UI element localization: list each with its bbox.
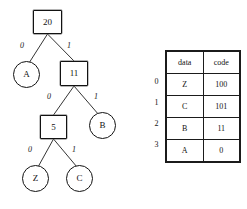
huffman-tree-panel: 20A115BZC 010101 xyxy=(0,0,145,209)
tree-edge-n5-z xyxy=(38,139,54,167)
code-table: datacodeZ100C101B11A0 xyxy=(165,50,241,163)
code-table-row: Z100 xyxy=(166,74,240,96)
tree-node-b: B xyxy=(89,112,116,139)
code-table-cell-code: 101 xyxy=(203,96,240,118)
tree-edge-label-n5-c: 1 xyxy=(72,146,76,154)
code-table-cell-data: Z xyxy=(166,74,203,96)
code-table-row: C101 xyxy=(166,96,240,118)
tree-node-n5: 5 xyxy=(40,115,67,139)
table-row-index: 2 xyxy=(150,120,163,128)
tree-node-z: Z xyxy=(22,165,49,192)
tree-node-label: 20 xyxy=(43,18,52,27)
code-table-row: B11 xyxy=(166,118,240,140)
code-table-row: A0 xyxy=(166,140,240,163)
code-table-cell-data: A xyxy=(166,140,203,163)
code-table-cell-code: 100 xyxy=(203,74,240,96)
tree-node-n11: 11 xyxy=(60,61,88,86)
tree-node-label: Z xyxy=(33,174,39,183)
huffman-diagram-figure: 20A115BZC 010101 0123 datacodeZ100C101B1… xyxy=(0,0,247,209)
tree-node-c: C xyxy=(66,165,93,192)
table-row-index: 0 xyxy=(150,78,163,86)
tree-edge-n11-n5 xyxy=(54,86,75,115)
code-table-panel: 0123 datacodeZ100C101B11A0 xyxy=(145,0,247,209)
code-table-cell-code: 11 xyxy=(203,118,240,140)
table-row-index: 3 xyxy=(150,141,163,149)
tree-node-a: A xyxy=(13,61,40,88)
tree-edge-label-n20-a: 0 xyxy=(20,42,24,50)
tree-node-label: C xyxy=(76,174,82,183)
tree-edge-label-n5-z: 0 xyxy=(28,146,32,154)
tree-edge-n20-a xyxy=(29,34,48,63)
tree-edge-label-n20-n11: 1 xyxy=(67,42,71,50)
tree-node-n20: 20 xyxy=(33,10,62,34)
tree-node-label: A xyxy=(23,70,30,79)
code-table-cell-data: C xyxy=(166,96,203,118)
tree-edge-label-n11-n5: 0 xyxy=(47,93,51,101)
code-table-header-data: data xyxy=(166,51,203,74)
code-table-header-row: datacode xyxy=(166,51,240,74)
code-table-cell-code: 0 xyxy=(203,140,240,163)
code-table-header-code: code xyxy=(203,51,240,74)
table-row-index: 1 xyxy=(150,99,163,107)
tree-node-label: 5 xyxy=(51,123,56,132)
code-table-body: datacodeZ100C101B11A0 xyxy=(166,51,240,162)
tree-node-label: 11 xyxy=(70,69,79,78)
tree-edge-label-n11-b: 1 xyxy=(94,93,98,101)
code-table-cell-data: B xyxy=(166,118,203,140)
tree-node-label: B xyxy=(99,121,105,130)
